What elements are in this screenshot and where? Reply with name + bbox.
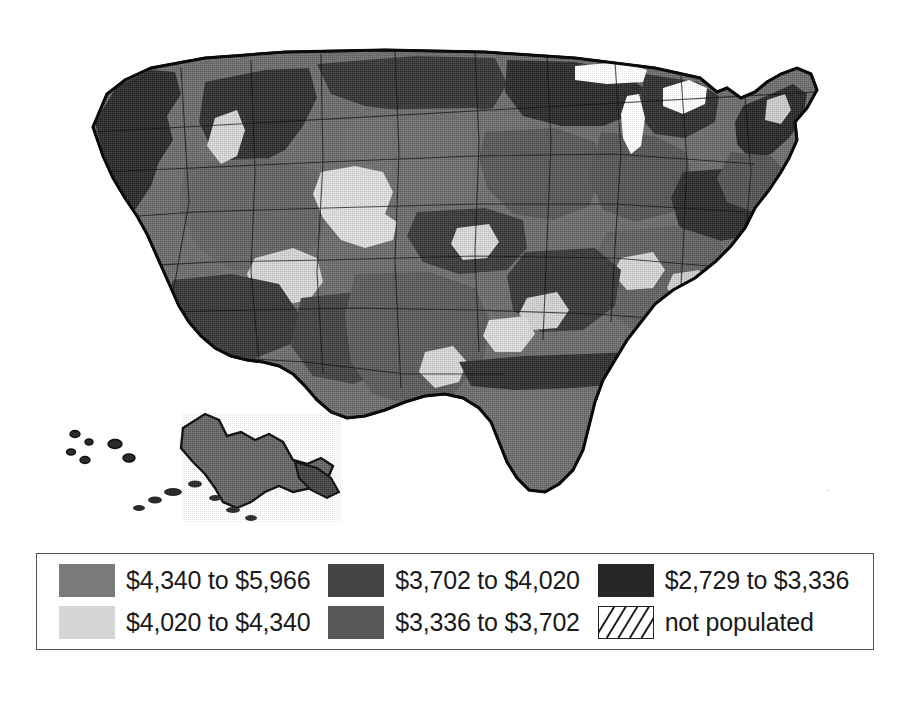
- legend-item-3702-4020[interactable]: $3,702 to $4,020: [328, 559, 597, 602]
- legend-label-4020-4340: $4,020 to $4,340: [126, 610, 310, 635]
- legend-item-4020-4340[interactable]: $4,020 to $4,340: [59, 602, 328, 645]
- legend-swatch-3702-4020: [328, 564, 384, 597]
- legend-label-4340-5966: $4,340 to $5,966: [126, 568, 310, 593]
- legend-swatch-3336-3702: [328, 606, 384, 639]
- legend-swatch-not-populated: [598, 606, 654, 639]
- legend-item-3336-3702[interactable]: $3,336 to $3,702: [328, 602, 597, 645]
- hawaii-island-maui: [80, 457, 90, 464]
- legend-swatch-4020-4340: [59, 606, 115, 639]
- legend-label-3702-4020: $3,702 to $4,020: [395, 568, 579, 593]
- map-legend: $4,340 to $5,966 $3,702 to $4,020 $2,729…: [36, 553, 874, 650]
- legend-item-2729-3336[interactable]: $2,729 to $3,336: [598, 559, 867, 602]
- hawaii-island-extra: [123, 454, 135, 462]
- us-choropleth-map: [55, 22, 855, 542]
- diagonal-hatch-icon: [599, 607, 653, 638]
- legend-label-2729-3336: $2,729 to $3,336: [665, 568, 849, 593]
- map-svg: [55, 22, 855, 542]
- legend-grid: $4,340 to $5,966 $3,702 to $4,020 $2,729…: [37, 554, 873, 649]
- legend-label-not-populated: not populated: [665, 610, 814, 635]
- hawaii-island-molokai: [67, 449, 76, 455]
- legend-item-4340-5966[interactable]: $4,340 to $5,966: [59, 559, 328, 602]
- figure-root: · $4,340 to $5,966 $3,702 to $4,020 $2,7…: [0, 0, 904, 710]
- legend-swatch-2729-3336: [598, 564, 654, 597]
- legend-swatch-4340-5966: [59, 564, 115, 597]
- hawaii-island-oahu: [85, 439, 93, 445]
- hawaii-island-hawaii: [108, 440, 122, 449]
- legend-item-not-populated[interactable]: not populated: [598, 602, 867, 645]
- hawaii-island-kauai: [70, 431, 80, 438]
- legend-label-3336-3702: $3,336 to $3,702: [395, 610, 579, 635]
